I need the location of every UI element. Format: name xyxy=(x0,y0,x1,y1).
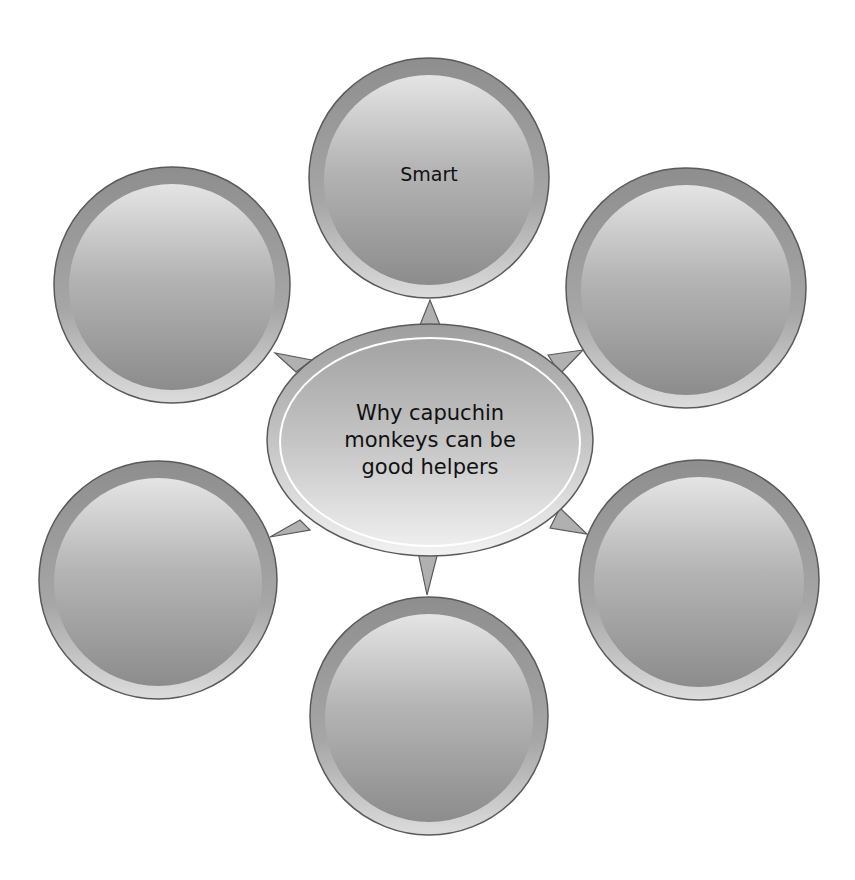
node-bottom[interactable] xyxy=(310,597,548,835)
connector-bottom xyxy=(418,552,438,595)
node-top[interactable] xyxy=(309,58,549,298)
bubble-map-diagram xyxy=(0,0,855,880)
node-top-left[interactable] xyxy=(54,167,290,403)
node-bottom-right[interactable] xyxy=(579,460,819,700)
node-top-right[interactable] xyxy=(566,168,806,408)
center-node xyxy=(267,324,593,556)
node-bottom-left[interactable] xyxy=(39,461,277,699)
connector-bottom-left xyxy=(270,520,310,537)
